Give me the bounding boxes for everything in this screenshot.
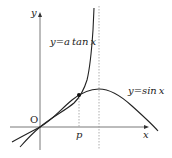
sin-curve-label: y=sin x	[128, 86, 164, 96]
y-axis-arrow-icon	[38, 12, 42, 17]
p-label: p	[76, 130, 82, 140]
x-axis-label: x	[143, 130, 149, 140]
intersection-point	[77, 93, 81, 97]
y-axis-label: y	[31, 8, 37, 18]
tan-curve-label: y=a tan x	[50, 37, 96, 47]
origin-label: O	[30, 115, 38, 125]
tan-curve	[20, 8, 94, 147]
